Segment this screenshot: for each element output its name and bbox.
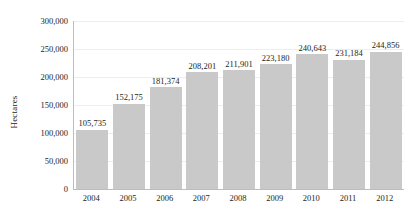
x-axis-tick-label: 2005 (110, 193, 147, 203)
bar[interactable] (186, 72, 218, 189)
x-axis-tick-label: 2008 (220, 193, 257, 203)
bar-slot: 223,180 (260, 21, 292, 189)
y-axis-tick-label: 100,000 (22, 129, 68, 138)
bar[interactable] (260, 64, 292, 189)
plot-area: 105,735152,175181,374208,201211,901223,1… (73, 21, 404, 190)
x-axis-tick-label: 2006 (146, 193, 183, 203)
x-axis-tick-label: 2011 (330, 193, 367, 203)
x-axis-tick-label: 2007 (183, 193, 220, 203)
x-axis-tick-label: 2012 (366, 193, 403, 203)
bar[interactable] (76, 130, 108, 189)
bar-chart: Hectares 050,000100,000150,000200,000250… (0, 0, 418, 223)
bar-slot: 105,735 (76, 21, 108, 189)
bar[interactable] (296, 54, 328, 189)
y-axis-tick-label: 0 (22, 185, 68, 194)
y-axis-tick-label: 150,000 (22, 101, 68, 110)
bar-value-label: 211,901 (225, 60, 252, 69)
bar-slot: 231,184 (333, 21, 365, 189)
bar-value-label: 152,175 (115, 93, 143, 102)
bar-slot: 211,901 (223, 21, 255, 189)
bar-value-label: 208,201 (189, 62, 217, 71)
bar[interactable] (333, 60, 365, 189)
y-axis-tick-label: 250,000 (22, 45, 68, 54)
y-axis-tick-labels: 050,000100,000150,000200,000250,000300,0… (22, 0, 68, 223)
bar-value-label: 240,643 (299, 44, 327, 53)
bar-value-label: 231,184 (335, 49, 363, 58)
bar-slot: 208,201 (186, 21, 218, 189)
bar-value-label: 223,180 (262, 54, 290, 63)
bars-container: 105,735152,175181,374208,201211,901223,1… (74, 21, 404, 189)
x-axis-tick-label: 2010 (293, 193, 330, 203)
x-axis-tick-labels: 200420052006200720082009201020112012 (73, 193, 403, 213)
bar-slot: 152,175 (113, 21, 145, 189)
bar-value-label: 105,735 (79, 119, 107, 128)
bar[interactable] (113, 104, 145, 189)
bar-value-label: 181,374 (152, 77, 180, 86)
bar-slot: 181,374 (150, 21, 182, 189)
bar[interactable] (150, 87, 182, 189)
bar-slot: 240,643 (296, 21, 328, 189)
bar[interactable] (370, 52, 402, 189)
bar[interactable] (223, 70, 255, 189)
bar-slot: 244,856 (370, 21, 402, 189)
x-axis-tick-label: 2004 (73, 193, 110, 203)
x-axis-tick-label: 2009 (256, 193, 293, 203)
y-axis-tick-label: 50,000 (22, 157, 68, 166)
bar-value-label: 244,856 (372, 41, 400, 50)
y-axis-title-label: Hectares (9, 95, 19, 128)
y-axis-tick-label: 300,000 (22, 17, 68, 26)
y-axis-tick-label: 200,000 (22, 73, 68, 82)
